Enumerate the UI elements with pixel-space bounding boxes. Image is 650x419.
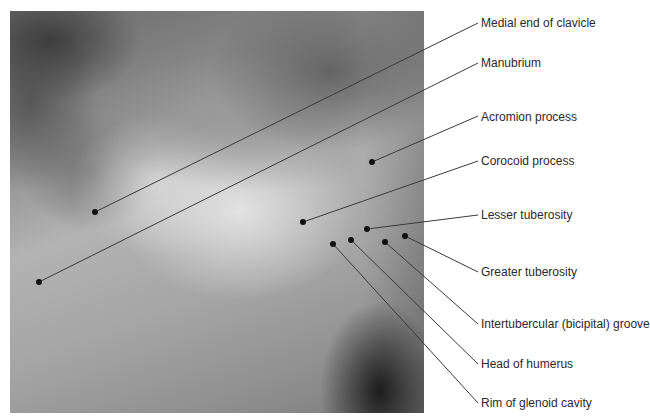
label-medial-end-of-clavicle: Medial end of clavicle bbox=[481, 16, 596, 30]
leader-line bbox=[39, 63, 478, 282]
landmark-dot bbox=[382, 239, 388, 245]
label-head-of-humerus: Head of humerus bbox=[481, 357, 573, 371]
leader-line bbox=[303, 161, 478, 222]
landmark-dot bbox=[364, 226, 370, 232]
label-rim-of-glenoid-cavity: Rim of glenoid cavity bbox=[481, 396, 592, 410]
leader-line bbox=[333, 244, 478, 403]
label-acromion-process: Acromion process bbox=[481, 110, 577, 124]
landmark-dot bbox=[348, 237, 354, 243]
leader-line bbox=[367, 215, 478, 229]
leader-line bbox=[405, 236, 478, 272]
label-intertubercular-groove: Intertubercular (bicipital) groove bbox=[481, 317, 650, 331]
landmark-dot bbox=[300, 219, 306, 225]
landmark-dot bbox=[369, 159, 375, 165]
leader-line bbox=[385, 242, 478, 324]
leader-line bbox=[95, 23, 478, 212]
leader-line bbox=[351, 240, 478, 364]
label-greater-tuberosity: Greater tuberosity bbox=[481, 265, 577, 279]
label-corocoid-process: Corocoid process bbox=[481, 154, 574, 168]
leader-line bbox=[372, 116, 478, 162]
landmark-dot bbox=[92, 209, 98, 215]
landmark-dot bbox=[330, 241, 336, 247]
landmark-dot bbox=[36, 279, 42, 285]
landmark-dot bbox=[402, 233, 408, 239]
label-manubrium: Manubrium bbox=[481, 56, 541, 70]
label-lesser-tuberosity: Lesser tuberosity bbox=[481, 208, 572, 222]
